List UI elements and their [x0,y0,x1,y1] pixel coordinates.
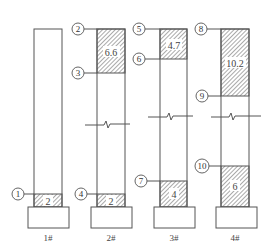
svg-text:5: 5 [137,24,142,34]
svg-text:8: 8 [199,24,204,34]
column-4: 10.2 6 4# 8 9 10 [195,23,261,243]
column-3-label: 3# [170,233,180,243]
value-c4-bottom: 6 [233,181,238,192]
svg-text:9: 9 [200,91,205,101]
column-1-label: 1# [44,233,54,243]
svg-text:4: 4 [79,189,84,199]
column-2: 6.6 2 2# 2 3 4 [72,23,132,243]
value-c2-bottom: 2 [109,196,114,207]
column-3: 4.7 4 3# 5 6 7 [133,23,195,243]
column-3-base [154,207,195,228]
svg-text:6: 6 [137,54,142,64]
column-2-label: 2# [107,233,117,243]
column-1-base [28,207,69,228]
svg-text:2: 2 [76,24,81,34]
value-c4-top: 10.2 [226,58,244,69]
svg-text:10: 10 [198,161,208,171]
pile-diagram: 2 1# 1 6.6 2 2# 2 3 4 4.7 4 [0,0,271,251]
value-c3-bottom: 4 [172,189,177,200]
svg-text:3: 3 [76,68,81,78]
value-c1-bottom: 2 [46,196,51,207]
value-c2-top: 6.6 [105,47,118,58]
column-4-base [216,207,257,228]
column-2-base [91,207,132,228]
value-c3-top: 4.7 [168,40,181,51]
column-4-label: 4# [231,233,241,243]
column-1: 2 1# 1 [12,29,69,243]
svg-text:1: 1 [16,189,21,199]
svg-text:7: 7 [139,176,144,186]
column-1-shaft [34,29,62,207]
